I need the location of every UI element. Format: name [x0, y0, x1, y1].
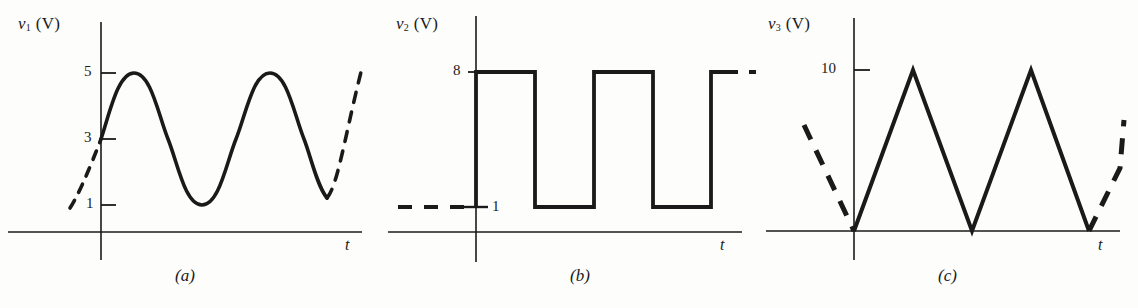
panel-a-tick-label-3: 3 [84, 129, 92, 146]
panel-b-y-sub: 2 [404, 22, 409, 33]
panel-b-waveform [476, 72, 725, 207]
panel-b-y-var: v [396, 14, 404, 33]
panel-c-waveform [854, 70, 1089, 231]
panel-a-tick-label-1: 1 [86, 195, 94, 212]
panel-a-t-label: t [345, 236, 349, 254]
panel-c-dashed-left [804, 125, 854, 231]
panel-b-tick-label-1: 1 [492, 198, 500, 215]
waveform-figure: v1 (V) 5 3 1 t (a) v2 (V) 8 [0, 0, 1138, 308]
panel-a-plot [0, 0, 380, 308]
panel-c-t-label: t [1098, 236, 1102, 254]
panel-a: v1 (V) 5 3 1 t (a) [0, 0, 380, 308]
panel-b-plot [380, 0, 760, 308]
panel-c-y-unit: (V) [786, 14, 811, 33]
panel-b-tick-label-8: 8 [453, 62, 461, 79]
panel-c-y-axis-label: v3 (V) [768, 14, 810, 34]
panel-c-tick-label-10: 10 [821, 60, 836, 77]
panel-b-y-axis-label: v2 (V) [396, 14, 438, 34]
panel-c-caption: (c) [938, 266, 957, 286]
panel-c-y-var: v [768, 14, 776, 33]
panel-a-tick-label-5: 5 [84, 63, 92, 80]
panel-b: v2 (V) 8 1 t (b) [380, 0, 760, 308]
panel-a-caption: (a) [175, 266, 195, 286]
panel-a-y-axis-label: v1 (V) [18, 14, 60, 34]
panel-a-y-var: v [18, 14, 26, 33]
panel-a-waveform [101, 73, 327, 205]
panel-c-plot [758, 0, 1138, 308]
panel-a-y-sub: 1 [26, 22, 31, 33]
panel-a-y-unit: (V) [36, 14, 61, 33]
panel-b-caption: (b) [570, 266, 590, 286]
panel-c: v3 (V) 10 t (c) [758, 0, 1138, 308]
panel-b-t-label: t [720, 236, 724, 254]
panel-c-y-sub: 3 [776, 22, 781, 33]
panel-b-y-unit: (V) [414, 14, 439, 33]
panel-a-dashed-right [327, 68, 362, 198]
panel-c-dashed-right [1089, 120, 1124, 231]
